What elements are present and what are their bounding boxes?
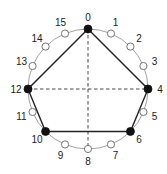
point-label-5: 5 [152,111,158,122]
open-point-14 [42,43,49,50]
point-label-6: 6 [136,134,142,145]
point-label-15: 15 [55,17,67,28]
open-point-3 [140,62,147,69]
point-labels: 0123456789101112131415 [10,12,163,167]
pitch-class-circle-diagram: 0123456789101112131415 [0,0,167,174]
open-point-1 [107,30,114,37]
point-label-8: 8 [85,156,91,167]
open-point-2 [127,43,134,50]
point-label-3: 3 [152,56,158,67]
point-label-12: 12 [10,84,22,95]
point-label-11: 11 [16,111,27,122]
point-label-10: 10 [32,134,44,145]
filled-point-0 [84,25,92,33]
open-point-13 [29,62,36,69]
filled-point-12 [24,85,32,93]
point-label-13: 13 [16,56,28,67]
open-point-15 [61,30,68,37]
open-point-5 [140,108,147,115]
point-label-4: 4 [157,84,163,95]
point-label-9: 9 [58,150,64,161]
open-point-9 [61,141,68,148]
open-point-11 [29,108,36,115]
filled-point-10 [42,127,50,135]
point-label-7: 7 [113,150,119,161]
open-point-8 [84,145,91,152]
filled-point-6 [126,127,134,135]
point-label-1: 1 [113,17,119,28]
filled-point-4 [144,85,152,93]
point-label-2: 2 [136,33,142,44]
point-label-0: 0 [85,12,91,23]
open-point-7 [107,141,114,148]
point-label-14: 14 [32,33,44,44]
